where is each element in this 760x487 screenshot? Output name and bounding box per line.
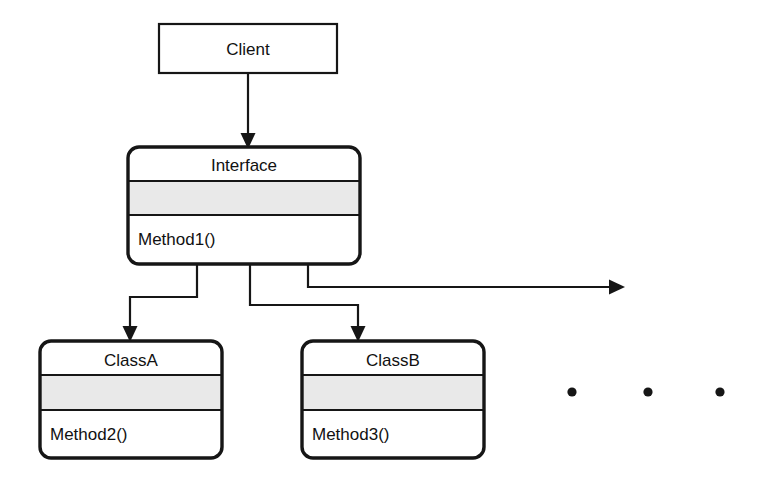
class-a-attributes-compartment xyxy=(41,375,221,410)
connector-interface-to-more xyxy=(308,264,625,295)
ellipsis-dot-1 xyxy=(567,387,576,396)
ellipsis-dot-3 xyxy=(715,387,724,396)
node-client[interactable]: Client xyxy=(159,24,337,73)
node-interface[interactable]: Interface Method1() xyxy=(128,147,360,264)
interface-attributes-compartment xyxy=(129,181,359,215)
uml-class-diagram: Client Interface Method1() ClassA Metho xyxy=(0,0,760,487)
class-b-title: ClassB xyxy=(366,351,420,370)
interface-method-1: Method1() xyxy=(138,230,215,249)
class-a-title: ClassA xyxy=(104,351,159,370)
arrowhead-icon xyxy=(609,280,625,295)
ellipsis-more-classes xyxy=(567,387,724,396)
interface-title: Interface xyxy=(211,156,277,175)
client-title: Client xyxy=(226,40,270,59)
node-class-b[interactable]: ClassB Method3() xyxy=(302,341,484,458)
ellipsis-dot-2 xyxy=(643,387,652,396)
node-class-a[interactable]: ClassA Method2() xyxy=(40,341,222,458)
connector-interface-to-class-a xyxy=(123,264,198,342)
class-b-attributes-compartment xyxy=(303,375,483,410)
class-a-method-1: Method2() xyxy=(50,425,127,444)
connector-client-to-interface xyxy=(241,73,256,149)
diagram-canvas: Client Interface Method1() ClassA Metho xyxy=(0,0,760,487)
class-b-method-1: Method3() xyxy=(312,425,389,444)
